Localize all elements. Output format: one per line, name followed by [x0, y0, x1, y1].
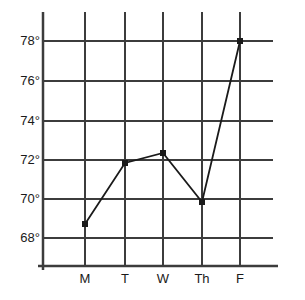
- x-tick-label-f: F: [220, 272, 260, 285]
- line-chart: 78°76°74°72°70°68° MTWThF: [0, 0, 305, 300]
- x-tick-label-w: W: [143, 272, 183, 285]
- x-tick-label-m: M: [65, 272, 105, 285]
- x-tick-label-th: Th: [182, 272, 222, 285]
- x-tick-label-t: T: [105, 272, 145, 285]
- x-axis-tick-labels: MTWThF: [0, 0, 305, 300]
